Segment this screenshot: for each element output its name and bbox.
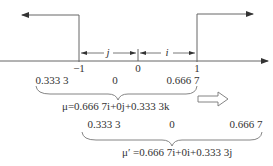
- connection-number-diagram: j i −1 0 1 0.333 3 0 0.666 7 μ=0.666 7i+…: [0, 0, 273, 166]
- formula-mu: μ=0.666 7i+0j+0.333 3k: [62, 100, 170, 112]
- formula-mu-prime: μ′ =0.666 7i+0i+0.333 3j: [122, 146, 232, 158]
- row2-value-right: 0.666 7: [230, 118, 264, 130]
- row2-value-mid: 0: [169, 118, 175, 130]
- tick-label-minus-one: −1: [73, 62, 85, 74]
- left-step-line: [22, 15, 79, 62]
- hollow-right-arrow-icon: [198, 92, 228, 106]
- right-step-line: [197, 14, 253, 62]
- brace-row2: [82, 132, 262, 146]
- interval-i-label: i: [165, 46, 168, 58]
- row1-value-left: 0.333 3: [36, 74, 70, 86]
- interval-j-label: j: [104, 46, 109, 58]
- brace-row1: [36, 86, 197, 100]
- diagram-svg: j i −1 0 1 0.333 3 0 0.666 7 μ=0.666 7i+…: [0, 0, 273, 166]
- tick-label-zero: 0: [135, 62, 141, 74]
- tick-label-one: 1: [194, 62, 200, 74]
- row2-value-left: 0.333 3: [88, 118, 122, 130]
- row1-value-right: 0.666 7: [167, 74, 201, 86]
- row1-value-mid: 0: [112, 74, 118, 86]
